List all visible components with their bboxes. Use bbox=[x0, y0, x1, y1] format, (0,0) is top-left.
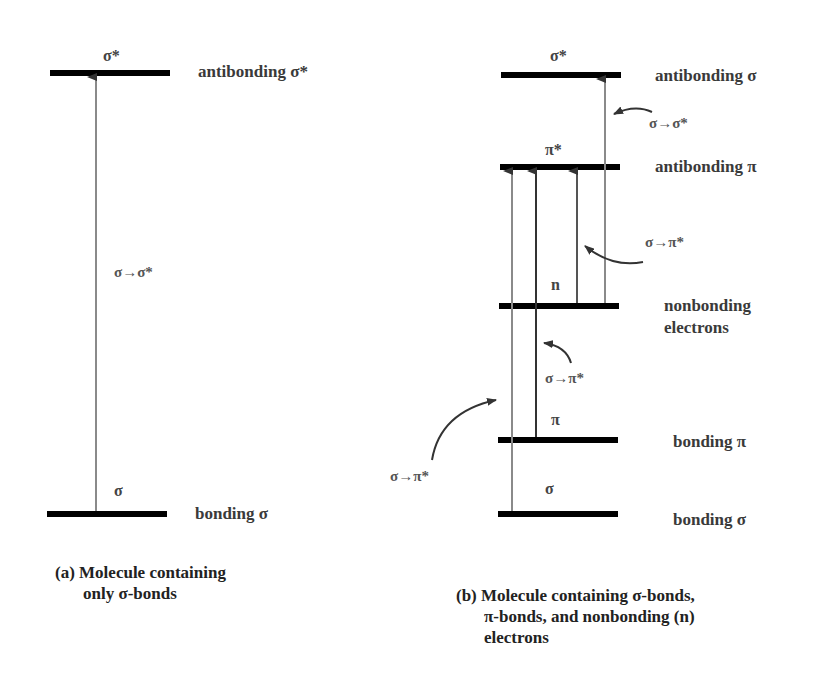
panel-b-levels bbox=[498, 72, 621, 517]
pointer-arrow-sigma-pi-star bbox=[432, 400, 496, 460]
transition-label-n-pi-star: σ→π* bbox=[645, 234, 684, 251]
level-bonding-sigma-a bbox=[47, 511, 167, 517]
label-bonding-pi-b: bonding π bbox=[673, 432, 746, 452]
label-antibonding-sigma-b: antibonding σ bbox=[655, 66, 756, 86]
symbol-n-b: n bbox=[551, 276, 560, 294]
label-bonding-sigma-a: bonding σ bbox=[195, 504, 268, 524]
symbol-sigma-b: σ bbox=[545, 480, 554, 498]
pointer-arrow-sigma-sigma-star bbox=[614, 108, 652, 114]
caption-b: (b) Molecule containing σ-bonds, π-bonds… bbox=[456, 585, 695, 648]
transition-label-sigma-pi-star: σ→π* bbox=[390, 468, 429, 485]
symbol-pi-b: π bbox=[551, 411, 560, 429]
caption-b-line2: π-bonds, and nonbonding (n) bbox=[456, 606, 695, 627]
level-nonbonding-b bbox=[499, 303, 619, 309]
symbol-sigma-star-b: σ* bbox=[550, 47, 567, 65]
level-antibonding-sigma-a bbox=[50, 70, 170, 76]
level-bonding-sigma-b bbox=[498, 511, 618, 517]
level-bonding-pi-b bbox=[498, 437, 618, 443]
transition-label-sigma-sigma-star-a: σ→σ* bbox=[114, 264, 153, 281]
level-antibonding-pi-b bbox=[500, 164, 620, 170]
caption-a: (a) Molecule containing only σ-bonds bbox=[55, 562, 226, 604]
caption-a-line2: only σ-bonds bbox=[55, 583, 226, 604]
label-nonbonding-line1: nonbonding bbox=[664, 296, 751, 316]
symbol-sigma-a: σ bbox=[114, 482, 123, 500]
caption-b-line1: (b) Molecule containing σ-bonds, bbox=[456, 585, 695, 606]
pointer-arrow-pi-pi-star bbox=[544, 343, 571, 363]
transition-label-sigma-sigma-star-b: σ→σ* bbox=[649, 115, 688, 132]
transition-label-pi-pi-star: σ→π* bbox=[545, 370, 584, 387]
label-nonbonding-line2: electrons bbox=[664, 318, 729, 338]
panel-a-levels bbox=[47, 70, 170, 517]
caption-b-line3: electrons bbox=[456, 627, 695, 648]
label-antibonding-sigma-a: antibonding σ* bbox=[198, 62, 308, 82]
label-antibonding-pi-b: antibonding π bbox=[655, 157, 756, 177]
label-bonding-sigma-b: bonding σ bbox=[673, 510, 746, 530]
level-antibonding-sigma-b bbox=[501, 72, 621, 78]
symbol-pi-star-b: π* bbox=[545, 141, 562, 159]
pointer-arrow-n-pi-star bbox=[585, 246, 643, 263]
symbol-sigma-star-a: σ* bbox=[103, 47, 120, 65]
caption-a-line1: (a) Molecule containing bbox=[55, 562, 226, 583]
